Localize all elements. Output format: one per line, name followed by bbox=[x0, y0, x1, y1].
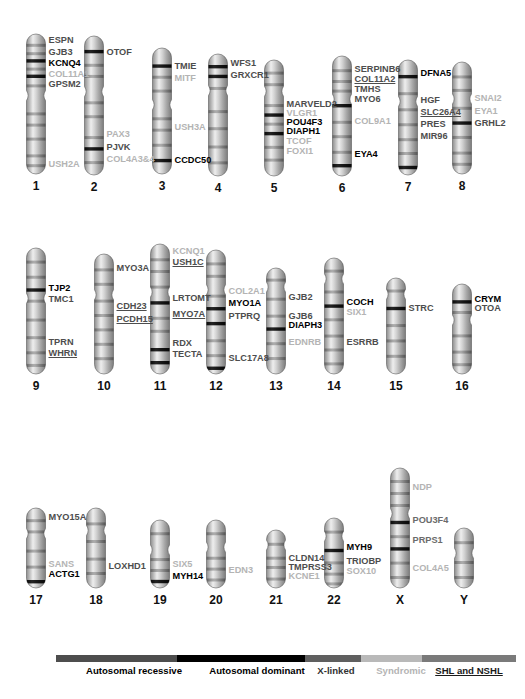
chromosome-body bbox=[453, 284, 472, 374]
chromosome-19 bbox=[150, 520, 171, 588]
gene-label-pou3f4: POU3F4 bbox=[413, 516, 449, 525]
chromosome-number-7: 7 bbox=[388, 180, 428, 194]
gene-label-tmhs: TMHS bbox=[355, 85, 381, 94]
chromosome-number-14: 14 bbox=[314, 379, 354, 393]
gene-label-col2a1: COL2A1 bbox=[229, 287, 265, 296]
chromosome-number-5: 5 bbox=[254, 181, 294, 195]
gene-label-tcof: TCOF bbox=[287, 137, 312, 146]
gene-label-hgf: HGF bbox=[421, 96, 440, 105]
chromosome-bands bbox=[264, 72, 285, 162]
gene-label-otoa: OTOA bbox=[475, 304, 501, 313]
chromosome-1 bbox=[26, 34, 47, 174]
gene-label-kcnq4: KCNQ4 bbox=[49, 59, 81, 68]
gene-label-cdh23: CDH23 bbox=[117, 302, 147, 311]
gene-label-tprn: TPRN bbox=[49, 338, 74, 347]
chromosome-body bbox=[325, 518, 344, 588]
gene-label-tjp2: TJP2 bbox=[49, 284, 71, 293]
chromosome-number-1: 1 bbox=[16, 179, 56, 193]
gene-label-slc26a4: SLC26A4 bbox=[421, 108, 461, 117]
gene-label-pax3: PAX3 bbox=[107, 130, 130, 139]
gene-label-rdx: RDX bbox=[173, 339, 192, 348]
chromosome-body bbox=[209, 54, 228, 176]
chromosome-6 bbox=[332, 56, 353, 176]
chromosome-number-19: 19 bbox=[140, 593, 180, 607]
gene-label-myh9: MYH9 bbox=[347, 543, 373, 552]
gene-label-mir96: MIR96 bbox=[421, 132, 448, 141]
chromosome-8 bbox=[452, 62, 473, 174]
chromosome-Y bbox=[454, 528, 475, 588]
chromosome-22 bbox=[324, 518, 345, 588]
chromosome-number-3: 3 bbox=[142, 179, 182, 193]
gene-label-actg1: ACTG1 bbox=[49, 570, 80, 579]
legend-item-4: SHL and NSHL bbox=[413, 655, 525, 676]
chromosome-number-16: 16 bbox=[442, 379, 482, 393]
chromosome-body bbox=[151, 244, 170, 374]
gene-label-tmie: TMIE bbox=[175, 62, 197, 71]
gene-label-slc17a8: SLC17A8 bbox=[229, 354, 269, 363]
gene-label-eya4: EYA4 bbox=[355, 150, 378, 159]
chromosome-10 bbox=[94, 254, 115, 374]
chromosome-11 bbox=[150, 244, 171, 374]
chromosome-body bbox=[391, 468, 410, 588]
gene-label-eya1: EYA1 bbox=[475, 107, 498, 116]
gene-label-otof: OTOF bbox=[107, 48, 132, 57]
gene-label-espn: ESPN bbox=[49, 36, 74, 45]
chromosome-9 bbox=[26, 248, 47, 374]
chromosome-14 bbox=[324, 258, 345, 374]
gene-label-myo15a: MYO15A bbox=[49, 513, 87, 522]
chromosome-number-13: 13 bbox=[256, 379, 296, 393]
chromosome-7 bbox=[398, 60, 419, 175]
gene-label-kcne1: KCNE1 bbox=[289, 572, 320, 581]
gene-label-lrtomt: LRTOMT bbox=[173, 294, 211, 303]
gene-label-myh14: MYH14 bbox=[173, 572, 204, 581]
chromosome-number-9: 9 bbox=[16, 379, 56, 393]
gene-label-tecta: TECTA bbox=[173, 350, 203, 359]
chromosome-number-15: 15 bbox=[376, 379, 416, 393]
chromosome-X bbox=[390, 468, 411, 588]
gene-label-six5: SIX5 bbox=[173, 560, 193, 569]
gene-label-gpsm2: GPSM2 bbox=[49, 80, 81, 89]
gene-label-ush1c: USH1C bbox=[173, 258, 204, 267]
chromosome-number-12: 12 bbox=[196, 379, 236, 393]
gene-label-tmc1: TMC1 bbox=[49, 295, 74, 304]
gene-label-prps1: PRPS1 bbox=[413, 536, 443, 545]
chromosome-number-Y: Y bbox=[444, 593, 484, 607]
gene-label-myo6: MYO6 bbox=[355, 95, 381, 104]
chromosome-number-2: 2 bbox=[74, 180, 114, 194]
chromosome-16 bbox=[452, 284, 473, 374]
gene-label-myo1a: MYO1A bbox=[229, 299, 262, 308]
chromosome-15 bbox=[386, 278, 407, 374]
gene-label-col9a1: COL9A1 bbox=[355, 117, 391, 126]
gene-label-ednrb: EDNRB bbox=[289, 338, 322, 347]
chromosome-number-17: 17 bbox=[16, 593, 56, 607]
chromosome-number-22: 22 bbox=[314, 593, 354, 607]
chromosome-number-21: 21 bbox=[256, 593, 296, 607]
gene-label-diaph3: DIAPH3 bbox=[289, 321, 323, 330]
gene-label-col11a2: COL11A2 bbox=[355, 75, 396, 84]
chromosome-body bbox=[151, 520, 170, 588]
chromosome-12 bbox=[206, 250, 227, 374]
gene-label-six1: SIX1 bbox=[347, 308, 367, 317]
gene-label-ptprq: PTPRQ bbox=[229, 312, 261, 321]
gene-label-ndp: NDP bbox=[413, 483, 432, 492]
gene-label-coch: COCH bbox=[347, 298, 374, 307]
gene-label-mitf: MITF bbox=[175, 74, 196, 83]
gene-label-snai2: SNAI2 bbox=[475, 94, 502, 103]
gene-label-col4a5: COL4A5 bbox=[413, 564, 449, 573]
chromosome-21 bbox=[266, 530, 287, 588]
gene-label-edn3: EDN3 bbox=[229, 566, 254, 575]
gene-label-myo7a: MYO7A bbox=[173, 310, 206, 319]
legend-label-shl-and-nshl: SHL and NSHL bbox=[413, 665, 525, 676]
chromosome-number-10: 10 bbox=[84, 379, 124, 393]
chromosome-number-X: X bbox=[380, 593, 420, 607]
gene-label-grhl2: GRHL2 bbox=[475, 119, 506, 128]
chromosome-body bbox=[333, 56, 352, 176]
gene-label-pjvk: PJVK bbox=[107, 143, 131, 152]
chromosome-17 bbox=[26, 508, 47, 588]
chromosome-number-4: 4 bbox=[198, 181, 238, 195]
gene-label-diaph1: DIAPH1 bbox=[287, 127, 321, 136]
chromosome-body bbox=[87, 508, 106, 588]
chromosome-body bbox=[85, 36, 104, 175]
gene-label-kcnq1: KCNQ1 bbox=[173, 247, 205, 256]
gene-label-sox10: SOX10 bbox=[347, 567, 377, 576]
